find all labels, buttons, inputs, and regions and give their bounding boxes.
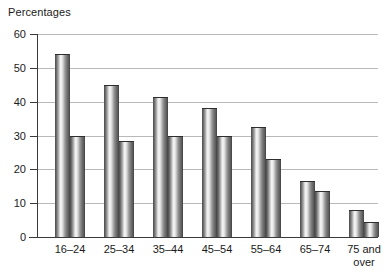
bar [168,136,183,238]
bar-group [202,34,232,237]
y-axis-tick [30,102,37,103]
y-axis-tick-label: 0 [2,232,26,243]
bar [315,191,330,237]
bar-group [104,34,134,237]
y-axis-tick-label: 20 [2,164,26,175]
x-axis-line [29,237,378,238]
bar [266,159,281,237]
bar [153,97,168,237]
bar [104,85,119,237]
bar-group [55,34,85,237]
bar [300,181,315,237]
y-axis-labels: 0102030405060 [0,0,26,278]
y-axis-tick [30,34,37,35]
bar [119,141,134,237]
y-axis-tick [30,68,37,69]
x-axis-tick-label: 75 and over [334,243,385,269]
y-axis-tick [30,203,37,204]
y-axis-tick-label: 50 [2,62,26,73]
y-axis-tick-label: 10 [2,198,26,209]
bar-group [349,34,379,237]
bar-chart: Percentages 0102030405060 16–2425–3435–4… [0,0,385,278]
bar-group [251,34,281,237]
bar [202,108,217,237]
y-axis-tick-label: 60 [2,29,26,40]
y-axis-tick [30,136,37,137]
bar-group [153,34,183,237]
bar [55,54,70,237]
y-axis-tick [30,169,37,170]
bar [70,136,85,238]
bar [364,222,379,237]
bar [349,210,364,237]
y-axis-tick-label: 40 [2,96,26,107]
bar-group [300,34,330,237]
plot-area [37,34,378,237]
y-axis-tick-label: 30 [2,130,26,141]
bar [251,127,266,237]
bar [217,136,232,238]
